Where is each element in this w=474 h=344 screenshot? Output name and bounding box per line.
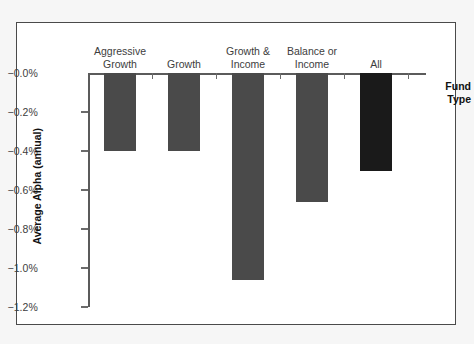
category-label-aggressive-growth: Aggressive Growth: [94, 45, 146, 70]
y-axis-tick: [81, 267, 88, 268]
y-axis-tick: [81, 111, 88, 112]
y-axis-tick: [81, 228, 88, 229]
x-axis-tick: [216, 73, 217, 79]
x-axis-tick: [408, 73, 409, 79]
category-label-balance-or-income: Balance or Income: [287, 45, 337, 70]
bar-all[interactable]: [360, 73, 392, 171]
y-axis-tick: [81, 150, 88, 151]
x-axis-tick: [280, 73, 281, 79]
x-axis-title: Fund Type: [433, 80, 471, 105]
bar-growth-income[interactable]: [232, 73, 264, 280]
x-axis-tick: [344, 73, 345, 79]
bar-growth[interactable]: [168, 73, 200, 151]
y-axis-tick-label: −1.2%: [7, 301, 38, 313]
y-axis-tick: [81, 189, 88, 190]
y-axis-tick-label: −0.2%: [7, 106, 38, 118]
category-label-all: All: [370, 58, 382, 71]
y-axis-tick-label: −0.0%: [7, 67, 38, 79]
y-axis-tick-label: −1.0%: [7, 262, 38, 274]
category-label-growth-income: Growth & Income: [226, 45, 270, 70]
y-axis-title: Average Alpha (annual): [31, 128, 43, 245]
chart-frame: −0.0%−0.2%−0.4%−0.6%−0.8%−1.0%−1.2% Aggr…: [16, 22, 456, 325]
chart-page: −0.0%−0.2%−0.4%−0.6%−0.8%−1.0%−1.2% Aggr…: [0, 0, 474, 344]
bar-balance-or-income[interactable]: [296, 73, 328, 202]
bar-aggressive-growth[interactable]: [104, 73, 136, 151]
x-axis-tick: [152, 73, 153, 79]
y-axis-line: [88, 73, 90, 307]
y-axis-tick: [81, 306, 88, 307]
category-label-growth: Growth: [167, 58, 201, 71]
